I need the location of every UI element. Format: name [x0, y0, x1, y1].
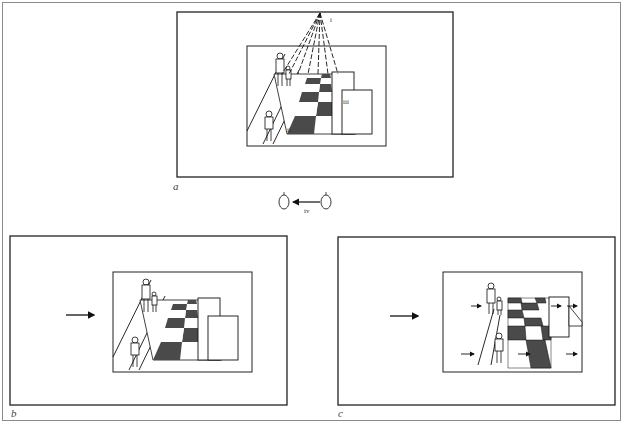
panel-b	[10, 236, 287, 405]
panel-c-label: c	[338, 407, 343, 419]
floor-tile-label: ii	[287, 126, 291, 134]
vanishing-point-label: i	[330, 16, 332, 24]
panel-c	[338, 237, 615, 405]
panel-a-label: a	[173, 180, 179, 192]
panel-a	[177, 12, 453, 177]
perspective-figure: i ii iii iv	[0, 0, 625, 430]
box-label: iii	[343, 98, 349, 106]
eye-movement-label: iv	[304, 207, 310, 215]
panel-b-label: b	[11, 407, 17, 419]
